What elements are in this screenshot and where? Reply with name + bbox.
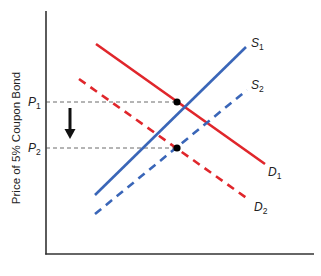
d2-label: D2 [254, 200, 268, 216]
demand-curve-d1 [96, 44, 265, 164]
bond-market-chart: Price of 5% Coupon Bond P1 P2 S1 S2 D1 D… [0, 0, 321, 276]
price-decrease-arrow-icon [65, 108, 76, 139]
s2-label: S2 [251, 78, 264, 94]
d1-label: D1 [268, 165, 282, 181]
supply-curve-s1 [95, 47, 246, 195]
y-axis-label: Price of 5% Coupon Bond [10, 72, 22, 204]
p1-label: P1 [28, 95, 41, 111]
supply-curve-s2 [95, 90, 247, 214]
s1-label: S1 [251, 36, 264, 52]
demand-curve-d2 [79, 79, 248, 199]
equilibrium-point-2 [173, 144, 180, 151]
equilibrium-point-1 [173, 98, 180, 105]
p2-label: P2 [28, 141, 41, 157]
